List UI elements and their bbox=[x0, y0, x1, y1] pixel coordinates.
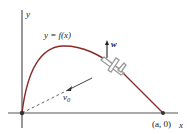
wind-label: w bbox=[111, 39, 117, 49]
x-axis-label: x bbox=[178, 120, 183, 130]
velocity-label-subscript: 0 bbox=[67, 96, 71, 103]
velocity-arrow-shaft bbox=[68, 78, 92, 90]
velocity-label: v0 bbox=[63, 92, 71, 103]
endpoint-label: (a, 0) bbox=[152, 119, 171, 129]
y-axis-label: y bbox=[25, 9, 30, 19]
wind-arrowhead bbox=[105, 40, 109, 45]
endpoint-a bbox=[161, 111, 165, 115]
origin-point bbox=[20, 111, 24, 115]
flight-path-diagram: y x y = f(x) w v0 (a, 0) bbox=[0, 0, 190, 134]
velocity-arrowhead bbox=[66, 86, 72, 91]
airplane-icon bbox=[101, 57, 126, 75]
curve-label: y = f(x) bbox=[43, 30, 71, 40]
velocity-dashed-line bbox=[22, 90, 68, 113]
